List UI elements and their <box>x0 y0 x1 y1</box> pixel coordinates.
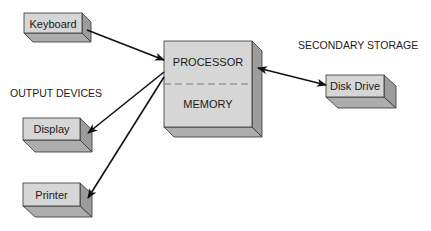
keyboard-node: Keyboard <box>24 13 91 42</box>
processor-memory-node: PROCESSOR MEMORY <box>164 41 262 137</box>
processor-disk-bidirectional-arrow <box>258 68 326 85</box>
printer-label: Printer <box>35 189 68 201</box>
printer-node: Printer <box>23 183 92 217</box>
diagram-canvas: Keyboard PROCESSOR MEMORY Disk Drive Dis… <box>0 0 431 231</box>
disk-drive-label: Disk Drive <box>330 80 380 92</box>
display-node: Display <box>23 118 92 152</box>
secondary-storage-heading: SECONDARY STORAGE <box>298 39 418 51</box>
output-devices-heading: OUTPUT DEVICES <box>10 87 102 99</box>
processor-to-display-arrow <box>88 72 164 133</box>
memory-label: MEMORY <box>183 98 233 110</box>
disk-drive-node: Disk Drive <box>326 75 396 108</box>
keyboard-to-processor-arrow <box>87 30 164 60</box>
display-label: Display <box>33 123 70 135</box>
keyboard-label: Keyboard <box>29 18 76 30</box>
processor-label: PROCESSOR <box>173 56 243 68</box>
